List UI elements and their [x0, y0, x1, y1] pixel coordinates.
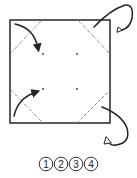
paper-square	[10, 20, 110, 123]
svg-text:4: 4	[88, 159, 94, 170]
fold-behind-arrowhead-icon	[104, 137, 111, 144]
step-labels: 1 2 3 4	[39, 157, 98, 171]
step-label-3: 3	[69, 157, 83, 171]
point-icon	[76, 53, 78, 55]
point-icon	[42, 88, 44, 90]
svg-text:2: 2	[58, 159, 64, 170]
point-icon	[42, 53, 44, 55]
svg-text:3: 3	[73, 159, 79, 170]
point-icon	[76, 88, 78, 90]
origami-diagram: 1 2 3 4	[0, 0, 137, 178]
step-label-1: 1	[39, 157, 53, 171]
step-label-2: 2	[54, 157, 68, 171]
svg-text:1: 1	[43, 159, 49, 170]
fold-behind-arrowhead-icon	[117, 27, 122, 32]
step-label-4: 4	[84, 157, 98, 171]
